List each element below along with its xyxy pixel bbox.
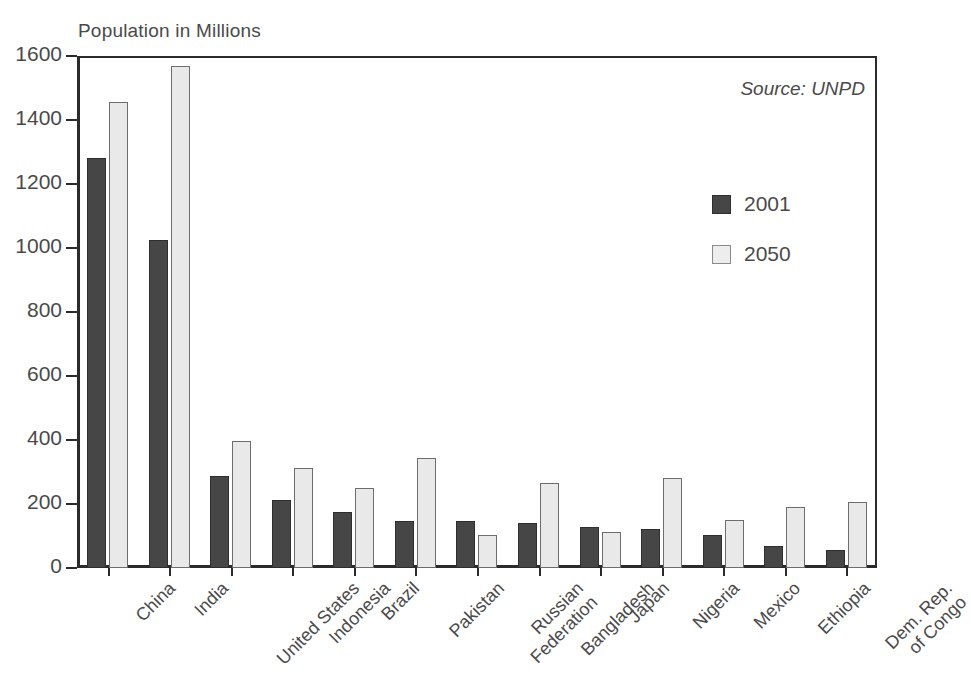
legend-swatch-icon [712,195,731,214]
y-tick-mark [66,503,77,505]
y-tick-label: 600 [27,362,62,386]
bar-group [200,56,262,568]
legend-label: 2001 [744,192,791,216]
bar-2050[interactable] [109,102,128,568]
x-axis-tick [662,568,664,576]
x-axis-label: China [132,578,180,626]
bar-group [508,56,570,568]
legend-item[interactable]: 2050 [712,242,791,266]
y-axis-title: Population in Millions [78,20,261,42]
y-tick-label: 1200 [15,170,62,194]
bar-2001[interactable] [210,476,229,568]
x-axis-tick [539,568,541,576]
y-tick-mark [66,567,77,569]
x-axis-tick [477,568,479,576]
bar-2050[interactable] [294,468,313,568]
source-annotation: Source: UNPD [740,78,865,100]
bars-layer [77,56,877,568]
bar-2001[interactable] [272,500,291,568]
bar-group [385,56,447,568]
bar-2001[interactable] [703,535,722,568]
x-axis-tick [600,568,602,576]
bar-2050[interactable] [171,66,190,568]
bar-2001[interactable] [456,521,475,568]
legend-item[interactable]: 2001 [712,192,791,216]
bar-group [446,56,508,568]
bar-group [754,56,816,568]
y-tick-label: 400 [27,426,62,450]
bar-group [262,56,324,568]
chart-legend: 20012050 [712,192,791,292]
bar-2050[interactable] [786,507,805,568]
bar-2001[interactable] [580,527,599,568]
bar-2050[interactable] [540,483,559,568]
legend-swatch-icon [712,245,731,264]
bar-2001[interactable] [826,550,845,568]
bar-group [631,56,693,568]
y-tick-label: 0 [50,554,62,578]
x-axis-tick [231,568,233,576]
bar-group [323,56,385,568]
x-axis-tick [785,568,787,576]
x-axis-label: Dem. Rep. of Congo [881,578,970,667]
y-tick-mark [66,311,77,313]
x-axis-label: Ethiopia [814,578,874,638]
bar-group [139,56,201,568]
bar-2001[interactable] [333,512,352,568]
bar-2001[interactable] [149,240,168,568]
legend-label: 2050 [744,242,791,266]
x-axis-label: Mexico [750,578,805,633]
y-tick-label: 1400 [15,106,62,130]
bar-2001[interactable] [395,521,414,568]
bar-group [815,56,877,568]
y-tick-label: 200 [27,490,62,514]
bar-2050[interactable] [478,535,497,568]
x-axis-tick [169,568,171,576]
y-tick-mark [66,247,77,249]
bar-2001[interactable] [87,158,106,568]
bar-2050[interactable] [417,458,436,568]
y-tick-label: 800 [27,298,62,322]
x-axis-tick [846,568,848,576]
y-tick-mark [66,119,77,121]
y-tick-label: 1000 [15,234,62,258]
x-axis-label: India [191,578,233,620]
bar-2050[interactable] [602,532,621,568]
bar-2001[interactable] [764,546,783,568]
y-tick-label: 1600 [15,42,62,66]
bar-2050[interactable] [232,441,251,568]
bar-2050[interactable] [663,478,682,568]
x-axis-tick [723,568,725,576]
bar-2050[interactable] [355,488,374,568]
bar-group [569,56,631,568]
x-axis-label: Pakistan [446,578,509,641]
y-tick-mark [66,439,77,441]
y-tick-mark [66,183,77,185]
x-axis-tick [415,568,417,576]
bar-2001[interactable] [641,529,660,568]
bar-group [692,56,754,568]
x-axis-tick [292,568,294,576]
x-axis-label: Nigeria [688,578,743,633]
x-axis-tick [108,568,110,576]
y-tick-mark [66,55,77,57]
x-axis-tick [354,568,356,576]
bar-group [77,56,139,568]
bar-2050[interactable] [725,520,744,568]
bar-2050[interactable] [848,502,867,568]
bar-2001[interactable] [518,523,537,568]
y-tick-mark [66,375,77,377]
